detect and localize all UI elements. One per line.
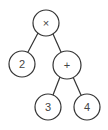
node-plus: + xyxy=(53,51,81,79)
node-two: 2 xyxy=(9,51,35,77)
edge-root-plus xyxy=(53,34,61,52)
node-multiply: × xyxy=(33,10,59,36)
node-four-label: 4 xyxy=(84,101,90,113)
node-three: 3 xyxy=(35,94,61,120)
edge-root-left xyxy=(28,33,38,52)
edge-plus-three xyxy=(53,77,60,95)
node-four: 4 xyxy=(74,94,100,120)
expression-tree-diagram: × 2 + 3 4 xyxy=(0,0,108,130)
edge-plus-four xyxy=(73,77,81,95)
node-plus-label: + xyxy=(64,59,70,71)
node-three-label: 3 xyxy=(45,101,51,113)
node-multiply-label: × xyxy=(43,17,49,29)
node-two-label: 2 xyxy=(19,58,25,70)
